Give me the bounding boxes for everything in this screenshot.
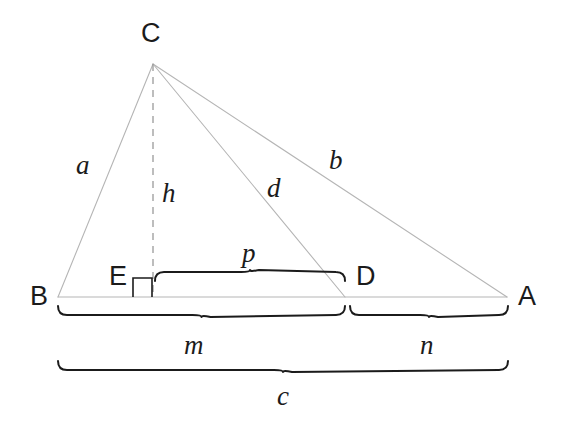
vertex-label-A: A: [518, 283, 536, 310]
segment-label-a: a: [76, 152, 90, 179]
brace-label-n: n: [420, 332, 434, 359]
brace-label-m: m: [184, 332, 204, 359]
right-angle-icon: [133, 278, 152, 297]
brace-n: [350, 306, 508, 317]
brace-label-p: p: [242, 240, 256, 267]
vertex-label-E: E: [109, 263, 127, 290]
brace-m: [58, 306, 345, 317]
segment-a-BC: [58, 64, 153, 297]
vertex-label-C: C: [141, 20, 161, 47]
segment-label-h: h: [162, 180, 176, 207]
segment-b-CA: [153, 64, 507, 297]
segment-label-d: d: [267, 175, 281, 202]
diagram-canvas: [0, 0, 564, 431]
geometry-diagram: A B C D E a b d h p m n c: [0, 0, 564, 431]
brace-c: [58, 361, 508, 372]
vertex-label-B: B: [30, 283, 48, 310]
brace-label-c: c: [277, 383, 289, 410]
segment-label-b: b: [329, 147, 343, 174]
vertex-label-D: D: [356, 263, 376, 290]
brace-p: [155, 270, 345, 281]
